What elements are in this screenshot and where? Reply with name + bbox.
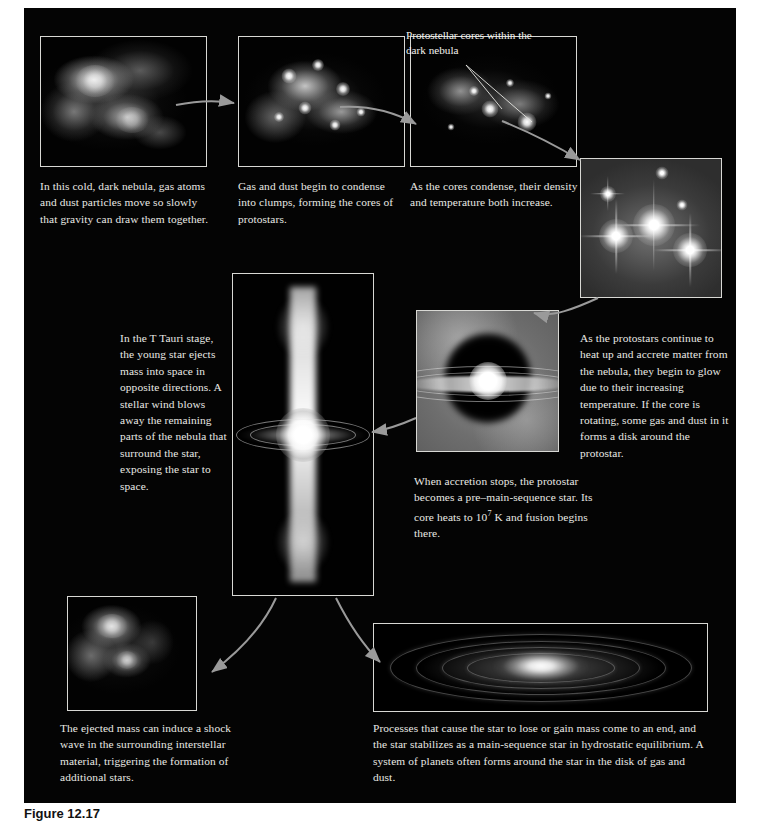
panel-dark-nebula	[40, 36, 207, 167]
protostar-clump	[336, 82, 350, 96]
glowing-protostar	[676, 199, 687, 210]
panel-glowing-protostars	[580, 158, 722, 298]
nebula-knot	[75, 65, 115, 97]
nebula-cloud	[41, 37, 206, 166]
caption-dark-nebula: In this cold, dark nebula, gas atoms and…	[40, 178, 215, 227]
protostar-clump	[312, 59, 324, 71]
nebula-cloud	[239, 37, 404, 166]
figure-board: Protostellar cores within the dark nebul…	[24, 8, 736, 803]
protostellar-core	[447, 124, 454, 131]
nebula-knot	[116, 651, 138, 669]
protostar-core	[469, 362, 507, 400]
protostellar-core	[544, 93, 551, 100]
inset-label-protostellar-cores: Protostellar cores within the dark nebul…	[406, 28, 554, 58]
glowing-protostar	[656, 166, 669, 179]
protostellar-core	[482, 101, 499, 118]
protostar-clump	[274, 112, 284, 122]
caption-glowing-protostars: As the protostars continue to heat up an…	[580, 330, 730, 461]
panel-shock-wave	[67, 596, 197, 711]
protostar-clump	[281, 68, 296, 83]
caption-core-density: As the cores condense, their density and…	[410, 178, 585, 211]
caption-pre-main-sequence: When accretion stops, the protostar beco…	[414, 473, 604, 541]
glowing-protostar	[633, 204, 675, 246]
panel-protostar-disk	[416, 310, 559, 452]
central-star	[487, 646, 595, 686]
caption-condensing-clumps: Gas and dust begin to condense into clum…	[238, 178, 398, 227]
protostar-clump	[329, 119, 340, 130]
caption-t-tauri: In the T Tauri stage, the young star eje…	[120, 330, 228, 494]
panel-planetary-disk	[373, 623, 708, 712]
caption-shock-wave: The ejected mass can induce a shock wave…	[60, 720, 246, 786]
figure-number-label: Figure 12.17	[24, 806, 100, 821]
glowing-protostar	[673, 233, 707, 267]
figure-page: Protostellar cores within the dark nebul…	[0, 0, 758, 827]
caption-main-sequence-disk: Processes that cause the star to lose or…	[373, 720, 708, 786]
arrow-stage6-to-shockwave	[212, 598, 276, 672]
nebula-knot	[96, 614, 128, 638]
protostellar-core	[506, 79, 514, 87]
glowing-protostar	[599, 219, 633, 253]
protostellar-core	[469, 86, 479, 96]
arrow-stage5-to-stage6	[372, 418, 416, 432]
protostellar-core	[517, 113, 536, 132]
nebula-knot	[115, 107, 149, 133]
glowing-protostar	[600, 186, 616, 202]
protostar-clump	[299, 101, 312, 114]
panel-condensing-clumps	[238, 36, 405, 167]
protostar-clump	[357, 107, 366, 116]
panel-t-tauri-jets	[232, 273, 374, 596]
young-star-core	[276, 408, 330, 462]
